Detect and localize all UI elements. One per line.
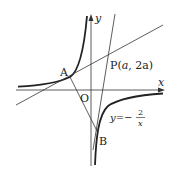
hyperbola-diagram: y x O A B P(a, 2a) y=− 2 x — [0, 0, 175, 178]
x-axis-label: x — [158, 76, 165, 89]
y-axis-label: y — [94, 12, 102, 25]
point-P-label: P(a, 2a) — [110, 59, 153, 72]
origin-label: O — [80, 92, 89, 105]
y-axis-arrow-icon — [89, 14, 94, 21]
hyperbola-branch-right — [95, 94, 163, 166]
curve-equation-denominator: x — [138, 119, 143, 128]
point-B-label: B — [99, 135, 107, 148]
point-A-label: A — [59, 66, 69, 79]
segment-AB — [70, 77, 98, 133]
curve-equation-lhs: y=− — [109, 112, 132, 123]
curve-equation-numerator: 2 — [138, 108, 143, 117]
hyperbola-branch-left — [18, 16, 87, 87]
